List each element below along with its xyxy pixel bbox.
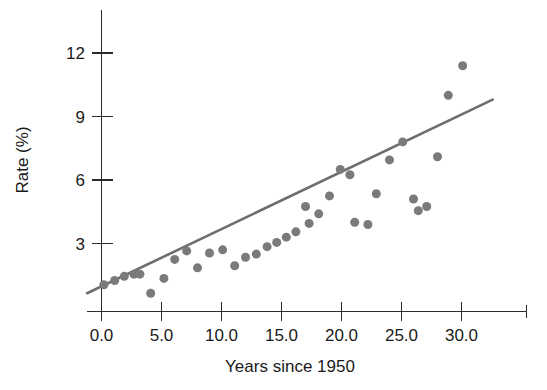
y-tick-label-9: 9 <box>76 108 85 127</box>
y-axis-ticks <box>92 53 113 244</box>
data-point <box>99 280 108 289</box>
x-tick-label-30: 30.0 <box>445 326 478 345</box>
data-point <box>182 246 191 255</box>
x-tick-label-20: 20.0 <box>325 326 358 345</box>
x-tick-label-0: 0.0 <box>90 326 114 345</box>
data-point <box>135 270 144 279</box>
x-axis-title: Years since 1950 <box>225 357 355 376</box>
data-point <box>444 91 453 100</box>
x-tick-label-15: 15.0 <box>265 326 298 345</box>
data-point <box>263 242 272 251</box>
data-point <box>414 206 423 215</box>
data-point <box>193 263 202 272</box>
data-point <box>230 261 239 270</box>
data-point <box>170 255 179 264</box>
data-point <box>336 165 345 174</box>
data-point <box>241 253 250 262</box>
scatter-chart: 12 9 6 3 0.0 5.0 10.0 15.0 20.0 25.0 30.… <box>0 0 547 390</box>
data-point <box>301 202 310 211</box>
data-point <box>110 276 119 285</box>
data-point <box>272 238 281 247</box>
data-point <box>372 189 381 198</box>
data-point <box>282 233 291 242</box>
data-point <box>409 195 418 204</box>
y-tick-label-12: 12 <box>66 44 85 63</box>
data-point <box>120 272 129 281</box>
data-point <box>385 155 394 164</box>
y-axis-title: Rate (%) <box>13 126 32 193</box>
data-point <box>218 245 227 254</box>
x-tick-label-25: 25.0 <box>385 326 418 345</box>
data-point <box>433 152 442 161</box>
data-point <box>159 274 168 283</box>
data-point <box>252 250 261 259</box>
data-point <box>350 218 359 227</box>
x-tick-label-10: 10.0 <box>205 326 238 345</box>
data-point <box>205 249 214 258</box>
data-point <box>146 289 155 298</box>
data-point <box>305 219 314 228</box>
data-point <box>422 202 431 211</box>
data-point <box>291 227 300 236</box>
y-tick-label-3: 3 <box>76 235 85 254</box>
data-point <box>345 170 354 179</box>
x-tick-label-5: 5.0 <box>150 326 174 345</box>
y-tick-label-6: 6 <box>76 171 85 190</box>
trend-line <box>87 100 493 294</box>
data-point <box>458 61 467 70</box>
chart-svg: 12 9 6 3 0.0 5.0 10.0 15.0 20.0 25.0 30.… <box>0 0 547 390</box>
data-point <box>398 137 407 146</box>
data-point <box>363 220 372 229</box>
data-point <box>325 191 334 200</box>
data-point <box>314 209 323 218</box>
